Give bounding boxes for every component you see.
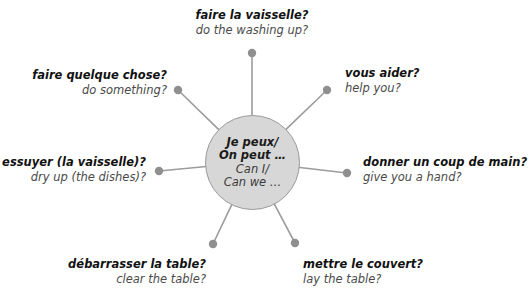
spoke-line-debarrasser-la-table xyxy=(213,204,232,244)
spoke-dot-faire-la-vaisselle xyxy=(248,49,256,57)
node-french-faire-la-vaisselle: faire la vaisselle? xyxy=(102,8,402,23)
spoke-line-essuyer-la-vaisselle xyxy=(159,166,206,171)
node-french-mettre-le-couvert: mettre le couvert? xyxy=(303,257,423,272)
spoke-line-mettre-le-couvert xyxy=(274,203,295,243)
node-english-vous-aider: help you? xyxy=(345,81,420,96)
spoke-dot-debarrasser-la-table xyxy=(209,240,217,248)
hub-english-line-2: Can we … xyxy=(224,176,282,189)
spoke-dot-donner-un-coup-de-main xyxy=(343,169,351,177)
node-label-vous-aider: vous aider?help you? xyxy=(345,66,420,95)
node-french-donner-un-coup-de-main: donner un coup de main? xyxy=(363,155,527,170)
node-label-donner-un-coup-de-main: donner un coup de main?give you a hand? xyxy=(363,155,527,184)
hub-french-line-2: On peut … xyxy=(219,149,286,162)
node-english-faire-la-vaisselle: do the washing up? xyxy=(102,23,402,38)
node-label-mettre-le-couvert: mettre le couvert?lay the table? xyxy=(303,257,423,286)
node-french-vous-aider: vous aider? xyxy=(345,66,420,81)
node-english-faire-quelque-chose: do something? xyxy=(0,83,167,98)
node-french-essuyer-la-vaisselle: essuyer (la vaisselle)? xyxy=(0,155,146,170)
node-english-mettre-le-couvert: lay the table? xyxy=(303,272,423,287)
hub-english-line-1: Can I/ xyxy=(236,163,269,176)
spoke-dot-essuyer-la-vaisselle xyxy=(155,167,163,175)
hub-french-line-1: Je peux/ xyxy=(227,136,279,149)
node-french-debarrasser-la-table: débarrasser la table? xyxy=(0,257,206,272)
node-english-essuyer-la-vaisselle: dry up (the dishes)? xyxy=(0,170,146,185)
hub-circle: Je peux/ On peut … Can I/ Can we … xyxy=(205,115,300,210)
spoke-line-donner-un-coup-de-main xyxy=(298,167,347,173)
spoke-line-faire-quelque-chose xyxy=(178,90,219,130)
node-french-faire-quelque-chose: faire quelque chose? xyxy=(0,68,167,83)
node-english-debarrasser-la-table: clear the table? xyxy=(0,272,206,287)
spoke-dot-mettre-le-couvert xyxy=(291,239,299,247)
node-english-donner-un-coup-de-main: give you a hand? xyxy=(363,170,527,185)
spoke-dot-faire-quelque-chose xyxy=(174,86,182,94)
spoke-line-vous-aider xyxy=(285,90,327,130)
spider-diagram: Je peux/ On peut … Can I/ Can we … faire… xyxy=(0,0,531,297)
node-label-faire-quelque-chose: faire quelque chose?do something? xyxy=(0,68,167,97)
node-label-faire-la-vaisselle: faire la vaisselle?do the washing up? xyxy=(102,8,402,37)
node-label-essuyer-la-vaisselle: essuyer (la vaisselle)?dry up (the dishe… xyxy=(0,155,146,184)
spoke-dot-vous-aider xyxy=(323,86,331,94)
node-label-debarrasser-la-table: débarrasser la table?clear the table? xyxy=(0,257,206,286)
